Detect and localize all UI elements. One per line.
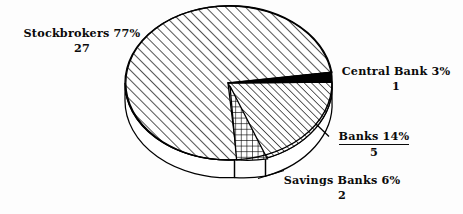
slice-label-stockbrokers-title: Stockbrokers 77%: [24, 26, 141, 40]
slice-label-savings-banks-title: Savings Banks 6%: [284, 173, 401, 187]
slice-label-banks-title: Banks 14%: [339, 129, 410, 145]
slice-label-savings-banks: Savings Banks 6% 2: [274, 173, 410, 202]
slice-label-stockbrokers: Stockbrokers 77% 27: [14, 26, 150, 55]
slice-label-central-bank: Central Bank 3% 1: [333, 64, 459, 93]
slice-label-savings-banks-value: 2: [274, 188, 410, 203]
pie-chart-figure: Stockbrokers 77% 27 Central Bank 3% 1 Ba…: [0, 0, 463, 214]
slice-label-banks-value: 5: [324, 145, 424, 160]
slice-label-banks: Banks 14% 5: [324, 129, 424, 159]
slice-label-stockbrokers-value: 27: [14, 41, 150, 56]
slice-label-central-bank-value: 1: [333, 79, 459, 94]
slice-label-central-bank-title: Central Bank 3%: [342, 64, 451, 78]
